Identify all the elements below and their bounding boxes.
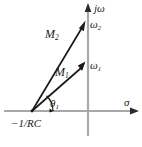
imaginary-axis-arrowhead-icon	[85, 3, 92, 12]
point-label-omega2-subscript: 2	[98, 24, 101, 31]
angle-label-theta1-subscript: 1	[55, 103, 58, 110]
pole-zero-vector-diagram: jω σ ω2 ω1 M2 M1 θ1 −1/RC	[0, 0, 142, 147]
vector-label-m1-subscript: 1	[65, 71, 69, 80]
pole-marker	[31, 110, 34, 113]
imaginary-axis-label: jω	[94, 3, 105, 14]
vector-label-m2: M2	[45, 28, 59, 40]
point-label-omega1: ω1	[90, 60, 101, 71]
vector-label-m1-base: M	[55, 65, 65, 79]
vector-label-m1: M1	[55, 66, 69, 78]
point-label-omega1-base: ω	[90, 59, 98, 71]
point-label-omega2-base: ω	[90, 18, 98, 30]
real-axis-arrowhead-icon	[130, 108, 139, 115]
pole-label: −1/RC	[11, 118, 41, 129]
vector-label-m2-subscript: 2	[55, 33, 59, 42]
point-label-omega2: ω2	[90, 19, 101, 30]
real-axis-label: σ	[124, 97, 129, 108]
point-label-omega1-subscript: 1	[98, 65, 101, 72]
angle-label-theta1: θ1	[50, 98, 59, 109]
vector-label-m2-base: M	[45, 27, 55, 41]
